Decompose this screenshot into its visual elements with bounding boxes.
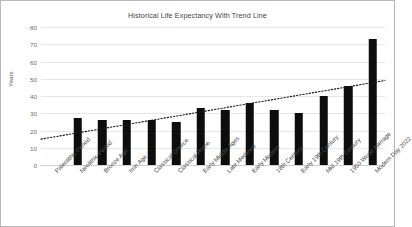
- x-axis-labels: Paleolithic PeriodNeolithic PeriodBronze…: [41, 167, 385, 225]
- y-axis-title: Years: [7, 71, 14, 87]
- y-axis-tick-label: 60: [30, 58, 37, 65]
- y-axis-tick-label: 10: [30, 144, 37, 151]
- y-axis-tick-label: 30: [30, 110, 37, 117]
- y-axis-tick-label: 0: [34, 162, 37, 169]
- chart-title: Historical Life Expectancy With Trend Li…: [1, 11, 394, 20]
- trend-line-segment: [41, 80, 385, 139]
- y-axis-tick-label: 80: [30, 24, 37, 31]
- y-axis-tick-label: 70: [30, 41, 37, 48]
- y-axis-tick-label: 50: [30, 75, 37, 82]
- y-axis-tick-label: 40: [30, 93, 37, 100]
- y-axis-tick-label: 20: [30, 127, 37, 134]
